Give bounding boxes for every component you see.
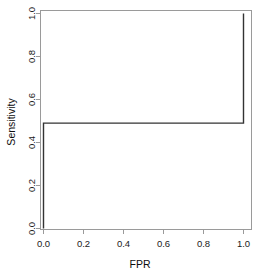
y-tick-label: 0.0: [26, 222, 37, 235]
y-tick-label: 0.4: [26, 136, 37, 149]
x-tick-label: 0.2: [77, 238, 90, 249]
y-axis-ticks: [36, 14, 40, 229]
roc-curve-line: [44, 14, 244, 229]
y-tick-label: 0.2: [26, 179, 37, 192]
y-axis-title: Sensitivity: [5, 98, 17, 146]
y-tick-label: 0.8: [26, 50, 37, 63]
x-tick-label: 0.4: [117, 238, 130, 249]
y-tick-label: 0.6: [26, 93, 37, 106]
roc-chart-canvas: 0.0 0.2 0.4 0.6 0.8 1.0 0.0 0.2 0.4 0.6 …: [0, 0, 264, 277]
x-axis-title: FPR: [130, 258, 151, 270]
plot-panel-border: [41, 11, 252, 230]
x-tick-label: 0.8: [197, 238, 210, 249]
roc-plot-figure: 0.0 0.2 0.4 0.6 0.8 1.0 0.0 0.2 0.4 0.6 …: [0, 0, 264, 277]
x-tick-label: 0.0: [37, 238, 50, 249]
x-axis-tick-labels: 0.0 0.2 0.4 0.6 0.8 1.0: [37, 238, 250, 249]
x-tick-label: 0.6: [157, 238, 170, 249]
x-tick-label: 1.0: [237, 238, 250, 249]
y-tick-label: 1.0: [26, 7, 37, 20]
y-axis-tick-labels: 0.0 0.2 0.4 0.6 0.8 1.0: [26, 7, 37, 235]
x-axis-ticks: [44, 230, 244, 234]
